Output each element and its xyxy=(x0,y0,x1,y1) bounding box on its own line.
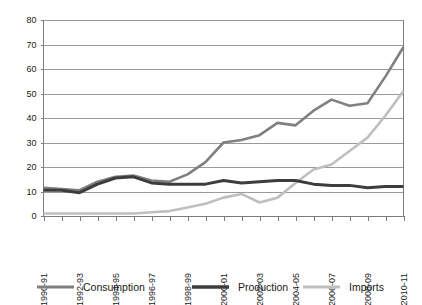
y-tick-label-50: 50 xyxy=(26,89,36,99)
x-tick-label-2006-07: 2006-07 xyxy=(327,273,337,305)
gridlines xyxy=(44,21,404,217)
data-series xyxy=(44,47,404,214)
y-tick-label-0: 0 xyxy=(31,211,36,221)
y-tick-label-10: 10 xyxy=(26,187,36,197)
x-axis-tickmarks xyxy=(45,216,405,221)
legend-label-consumption: Consumption xyxy=(83,281,145,293)
y-tick-label-30: 30 xyxy=(26,138,36,148)
x-tick-label-1996-97: 1996-97 xyxy=(147,273,157,305)
x-tick-label-2004-05: 2004-05 xyxy=(291,273,301,305)
y-tick-label-60: 60 xyxy=(26,64,36,74)
chart-canvas: 01020304050607080 1990-911992-931994-951… xyxy=(0,0,422,305)
series-line-production xyxy=(44,177,404,193)
series-line-imports xyxy=(44,91,404,214)
x-tick-label-1998-99: 1998-99 xyxy=(183,273,193,305)
line-chart: 01020304050607080 1990-911992-931994-951… xyxy=(0,0,422,305)
y-axis-tick-labels: 01020304050607080 xyxy=(26,15,43,221)
x-tick-label-2000-01: 2000-01 xyxy=(219,273,229,305)
x-tick-label-2010-11: 2010-11 xyxy=(399,273,409,305)
x-tick-label-1990-91: 1990-91 xyxy=(39,273,49,305)
legend-label-production: Production xyxy=(238,281,288,293)
legend-label-imports: Imports xyxy=(349,281,384,293)
y-tick-label-70: 70 xyxy=(26,40,36,50)
y-tick-label-80: 80 xyxy=(26,15,36,25)
y-tick-label-20: 20 xyxy=(26,162,36,172)
y-tick-label-40: 40 xyxy=(26,113,36,123)
